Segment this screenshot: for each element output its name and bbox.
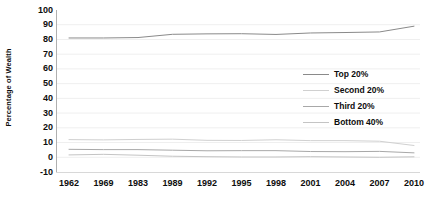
y-axis-tick-labels: 1009080706050403020100-10 <box>18 0 53 208</box>
y-axis-tick-label: 30 <box>18 109 53 118</box>
legend-line-swatch <box>303 119 329 126</box>
y-axis-tick-label: 90 <box>18 20 53 29</box>
y-axis-tick-label: 60 <box>18 64 53 73</box>
y-axis-title: Percentage of Wealth <box>0 0 16 175</box>
x-axis-tick-label: 1998 <box>266 178 286 189</box>
x-axis-tick-label: 1995 <box>231 178 251 189</box>
legend-item-label: Top 20% <box>334 69 368 79</box>
y-axis-tick-label: 40 <box>18 94 53 103</box>
legend-item[interactable]: Top 20% <box>303 66 421 82</box>
legend-item[interactable]: Second 20% <box>303 82 421 98</box>
y-axis-title-text: Percentage of Wealth <box>4 48 13 126</box>
x-axis-line <box>56 172 420 173</box>
y-axis-tick-label: -10 <box>18 168 53 177</box>
y-axis-tick-label: 20 <box>18 123 53 132</box>
legend-line-swatch <box>303 71 329 78</box>
chart-screenshot: Percentage of Wealth 1009080706050403020… <box>0 0 428 208</box>
x-axis-tick-label: 2004 <box>335 178 355 189</box>
legend-item[interactable]: Bottom 40% <box>303 114 421 130</box>
legend-item-label: Third 20% <box>334 101 375 111</box>
legend-line-swatch <box>303 87 329 94</box>
legend-item-label: Second 20% <box>334 85 384 95</box>
y-axis-tick-label: 80 <box>18 35 53 44</box>
x-axis-tick-label: 2010 <box>404 178 424 189</box>
x-axis-tick-label: 1983 <box>128 178 148 189</box>
y-axis-tick-label: 70 <box>18 50 53 59</box>
x-axis-tick-label: 2007 <box>369 178 389 189</box>
y-axis-tick-label: 50 <box>18 79 53 88</box>
series-line <box>69 149 414 153</box>
x-axis-tick-labels: 1962196919831989199219951998200120042007… <box>57 178 420 194</box>
x-axis-tick-label: 1992 <box>197 178 217 189</box>
series-line <box>69 26 414 38</box>
x-axis-tick-label: 1962 <box>59 178 79 189</box>
chart-legend: Top 20%Second 20%Third 20%Bottom 40% <box>303 66 421 130</box>
legend-item-label: Bottom 40% <box>334 117 383 127</box>
y-axis-tick-label: 100 <box>18 6 53 15</box>
legend-item[interactable]: Third 20% <box>303 98 421 114</box>
y-axis-tick-label: 0 <box>18 153 53 162</box>
x-axis-tick-label: 1989 <box>162 178 182 189</box>
y-axis-tick-label: 10 <box>18 138 53 147</box>
x-axis-tick-label: 2001 <box>300 178 320 189</box>
legend-line-swatch <box>303 103 329 110</box>
x-axis-tick-label: 1969 <box>93 178 113 189</box>
